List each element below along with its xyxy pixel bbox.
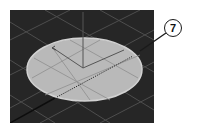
- callout-circle-icon: 7: [164, 19, 182, 37]
- callout-number: 7: [170, 23, 176, 34]
